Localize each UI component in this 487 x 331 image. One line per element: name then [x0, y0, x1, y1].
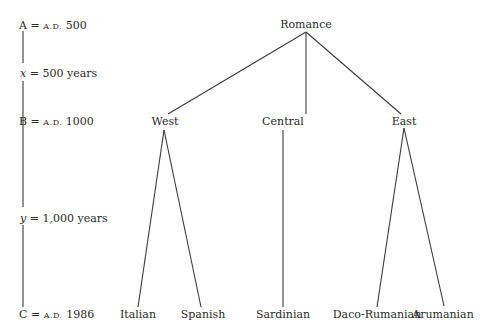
timeline-point-a: A = A.D. 500	[19, 20, 87, 31]
leaf-daco-rumanian: Daco-Rumanian	[333, 309, 421, 320]
edge-east-arumanian	[404, 128, 444, 306]
edge-west-italian	[138, 130, 164, 307]
node-romance: Romance	[280, 19, 332, 30]
equals-sign: =	[30, 212, 39, 225]
interval-value: 500 years	[42, 67, 97, 80]
node-central: Central	[262, 116, 304, 127]
leaf-italian: Italian	[120, 309, 156, 320]
era-label: A.D.	[43, 118, 62, 127]
leaf-spanish: Spanish	[181, 309, 225, 320]
equals-sign: =	[31, 308, 40, 321]
var-label: y	[20, 212, 26, 225]
node-east: East	[392, 116, 417, 127]
equals-sign: =	[30, 67, 39, 80]
edge-romance-east	[306, 32, 401, 114]
year-value: 1000	[66, 115, 94, 128]
edge-romance-west	[168, 32, 306, 114]
edge-east-dacorumanian	[377, 128, 404, 307]
era-label: A.D.	[44, 311, 63, 320]
timeline-point-c: C = A.D. 1986	[19, 309, 94, 320]
era-label: A.D.	[43, 22, 62, 31]
var-label: C	[19, 308, 27, 321]
year-value: 1986	[66, 308, 94, 321]
leaf-arumanian: Arumanian	[412, 309, 474, 320]
node-west: West	[152, 116, 179, 127]
interval-value: 1,000 years	[42, 212, 107, 225]
var-label: B	[19, 115, 27, 128]
timeline-point-b: B = A.D. 1000	[19, 116, 94, 127]
timeline-interval-y: y = 1,000 years	[20, 213, 108, 224]
equals-sign: =	[31, 115, 40, 128]
edge-west-spanish	[164, 130, 201, 307]
var-label: x	[20, 67, 26, 80]
leaf-sardinian: Sardinian	[256, 309, 310, 320]
equals-sign: =	[30, 19, 39, 32]
year-value: 500	[66, 19, 87, 32]
var-label: A	[19, 19, 27, 32]
timeline-interval-x: x = 500 years	[20, 68, 97, 79]
tree-lines	[0, 0, 487, 331]
